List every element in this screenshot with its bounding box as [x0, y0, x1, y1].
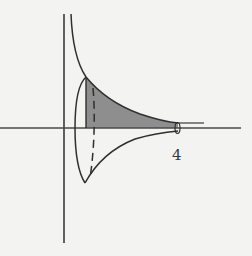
left-cross-section-ellipse	[75, 77, 86, 183]
diagram-canvas: 4	[0, 0, 252, 256]
x-tick-label-4: 4	[172, 146, 182, 164]
horn-diagram: 4	[0, 0, 252, 256]
lower-curve	[85, 131, 178, 183]
